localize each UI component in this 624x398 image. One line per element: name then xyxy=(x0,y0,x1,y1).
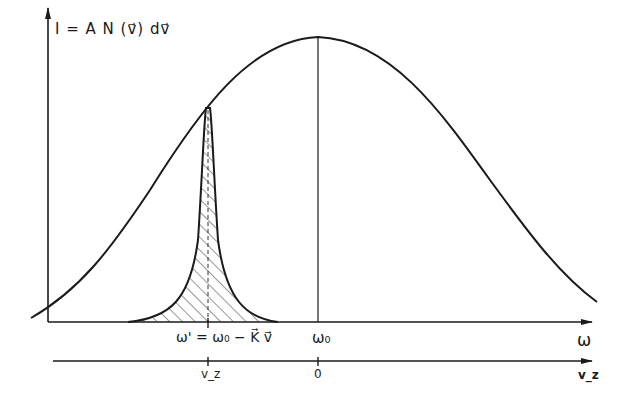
velocity-axis-label: v_z xyxy=(578,368,599,382)
gaussian-doppler-profile xyxy=(31,37,597,318)
omega-zero-label: ω₀ xyxy=(312,329,331,347)
zero-tick-label: 0 xyxy=(314,367,322,381)
x-axis-label: ω xyxy=(577,330,591,350)
omega-prime-label: ω' = ω₀ − K⃗ v⃗ xyxy=(176,329,272,345)
y-axis-label: I = A N (v⃗) dv⃗ xyxy=(55,20,170,38)
vz-tick-label: v_z xyxy=(201,367,220,381)
